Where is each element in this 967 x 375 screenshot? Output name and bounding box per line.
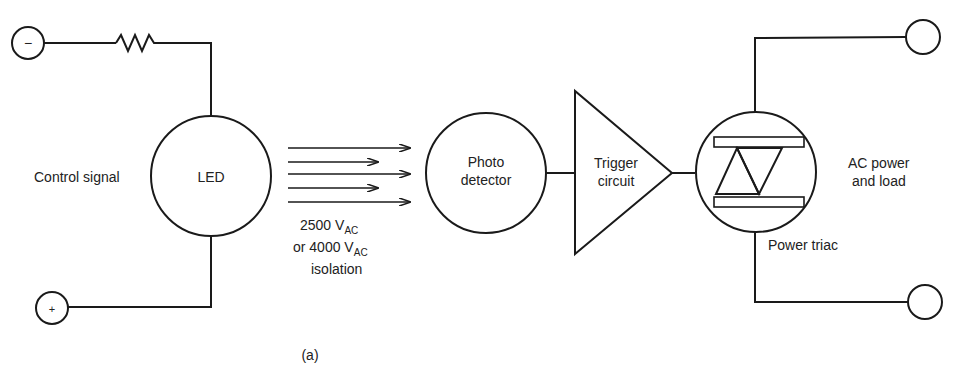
input-wire-top bbox=[44, 35, 211, 116]
isolation-line1-value: 2500 V bbox=[300, 217, 345, 233]
svg-text:2500 VAC: 2500 VAC bbox=[300, 217, 358, 236]
resistor-icon bbox=[116, 35, 159, 51]
isolation-line2-value: or 4000 V bbox=[293, 239, 354, 255]
trigger-label-line1: Trigger bbox=[594, 155, 638, 171]
led-label: LED bbox=[197, 169, 224, 185]
power-triac-block bbox=[696, 112, 816, 232]
light-arrows-icon bbox=[288, 148, 410, 202]
svg-text:or 4000 VAC: or 4000 VAC bbox=[293, 239, 368, 258]
isolation-line3: isolation bbox=[311, 261, 362, 277]
trigger-label-line2: circuit bbox=[598, 173, 635, 189]
output-terminal-top bbox=[906, 20, 940, 54]
plus-sign: + bbox=[49, 303, 55, 315]
photo-detector-label-line1: Photo bbox=[468, 154, 505, 170]
isolation-line2-sub: AC bbox=[354, 247, 368, 258]
output-terminal-bottom bbox=[908, 285, 942, 319]
ac-power-label-line2: and load bbox=[852, 173, 906, 189]
minus-terminal: − bbox=[12, 27, 44, 59]
optocoupler-diagram: − LED Control signal + 2500 VAC or 4000 … bbox=[0, 0, 967, 375]
photo-detector-block: Photo detector bbox=[426, 113, 546, 233]
minus-sign: − bbox=[24, 35, 32, 51]
figure-caption: (a) bbox=[301, 347, 318, 363]
photo-detector-label-line2: detector bbox=[461, 172, 512, 188]
isolation-label: 2500 VAC or 4000 VAC isolation bbox=[293, 217, 368, 277]
plus-terminal: + bbox=[36, 292, 68, 324]
power-triac-label: Power triac bbox=[768, 237, 838, 253]
input-wire-bottom bbox=[68, 236, 211, 307]
ac-power-label-line1: AC power bbox=[848, 155, 910, 171]
triac-icon bbox=[714, 137, 804, 207]
control-signal-label: Control signal bbox=[34, 169, 120, 185]
trigger-circuit-block: Trigger circuit bbox=[575, 91, 672, 254]
led-block: LED bbox=[151, 116, 271, 236]
output-wire-top bbox=[755, 37, 906, 112]
isolation-line1-sub: AC bbox=[344, 225, 358, 236]
